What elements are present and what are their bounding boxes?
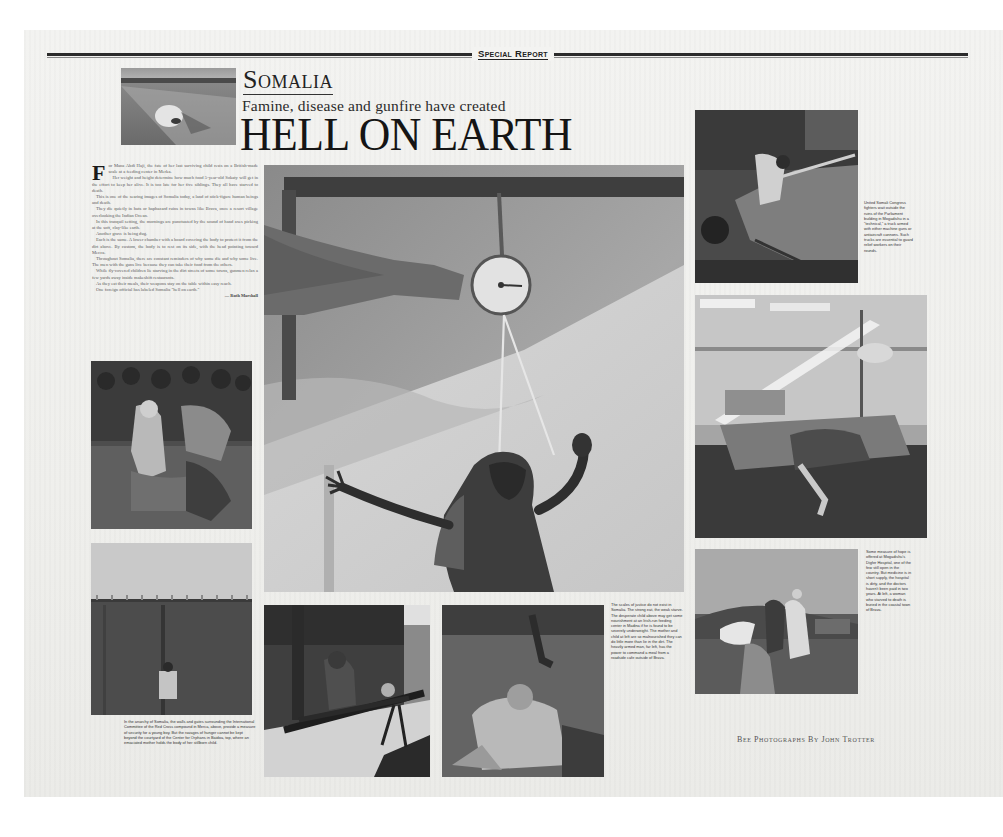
- article-paragraph: This is one of the searing images of Som…: [92, 194, 258, 206]
- photo-gate: [91, 543, 252, 715]
- photo-hospital: [695, 295, 927, 538]
- photo-burial: [695, 549, 858, 694]
- photo-scale: [264, 165, 684, 592]
- article-paragraph: They die quietly in huts or haphazard ru…: [92, 206, 258, 218]
- photo-gunner: [264, 605, 430, 777]
- photo-crowd: [91, 361, 252, 529]
- article-body: For Mana Abdi Haji, the fate of her last…: [92, 163, 258, 299]
- article-paragraph: Her weight and height determine how much…: [92, 175, 258, 194]
- photo-skull: [121, 68, 236, 145]
- section-flag-label: Special Report: [478, 48, 548, 60]
- photo-technical: [695, 110, 858, 283]
- drop-cap: F: [92, 164, 105, 181]
- section-flag: Special Report: [472, 47, 554, 61]
- headline: HELL ON EARTH: [240, 110, 572, 158]
- caption-woman: The scales of justice do not exist in So…: [611, 602, 683, 660]
- photo-woman: [442, 605, 604, 777]
- kicker: Somalia: [243, 66, 333, 95]
- caption-gate: In the anarchy of Somalia, the walls and…: [124, 719, 256, 745]
- article-paragraph: While fly-covered children lie starving …: [92, 268, 258, 280]
- byline: — Ruth Marshall: [92, 293, 258, 299]
- article-paragraph: Each is the same. A lower chamber with a…: [92, 237, 258, 256]
- photo-credit: Bee Photographs By John Trotter: [737, 735, 875, 744]
- article-paragraph: For Mana Abdi Haji, the fate of her last…: [92, 163, 258, 175]
- article-paragraph: Throughout Somalia, there are constant r…: [92, 256, 258, 268]
- caption-technical: United Somali Congress fighters wait out…: [864, 200, 914, 253]
- caption-burial: Some measure of hope is offered at Mogad…: [866, 549, 912, 613]
- article-paragraph: In this tranquil setting, the mornings a…: [92, 219, 258, 231]
